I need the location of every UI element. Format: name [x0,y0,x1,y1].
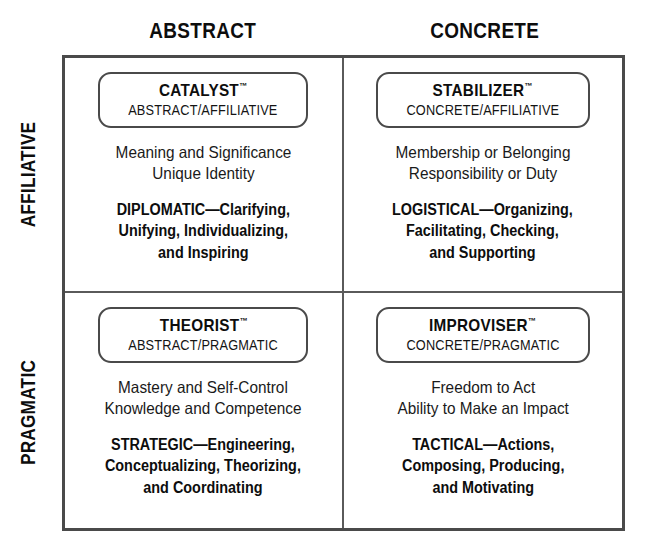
quadrant-theorist-roles: STRATEGIC—Engineering, Conceptualizing, … [105,434,301,498]
role-line: and Motivating [402,477,564,498]
role-line: Facilitating, Checking, [392,220,573,241]
value-line: Ability to Make an Impact [397,398,568,419]
temperament-matrix-diagram: ABSTRACT CONCRETE AFFILIATIVE PRAGMATIC … [0,0,647,539]
quadrant-stabilizer-roles: LOGISTICAL—Organizing, Facilitating, Che… [392,199,573,263]
quadrant-catalyst-title: CATALYST™ [159,81,247,101]
value-line: Responsibility or Duty [395,163,570,184]
quadrant-catalyst-subtitle: ABSTRACT/AFFILIATIVE [129,102,278,118]
quadrant-stabilizer-title-wrap: STABILIZER™ [396,81,570,101]
column-header-abstract-label: ABSTRACT [149,18,256,44]
quadrant-theorist-title: THEORIST™ [159,316,247,336]
quadrant-theorist-label-box: THEORIST™ ABSTRACT/PRAGMATIC [98,307,308,363]
row-header-affiliative-label: AFFILIATIVE [17,121,40,227]
role-line: Conceptualizing, Theorizing, [105,455,301,476]
role-line: Unifying, Individualizing, [117,220,290,241]
quadrant-catalyst-label-box: CATALYST™ ABSTRACT/AFFILIATIVE [98,72,308,128]
quadrant-improviser-subtitle: CONCRETE/PRAGMATIC [406,337,559,353]
trademark-icon: ™ [528,316,536,326]
row-header-pragmatic: PRAGMATIC [0,293,56,531]
row-header-affiliative: AFFILIATIVE [0,55,56,293]
quadrant-theorist: THEORIST™ ABSTRACT/PRAGMATIC Mastery and… [65,293,344,528]
row-header-column: AFFILIATIVE PRAGMATIC [0,55,56,531]
value-line: Knowledge and Competence [105,398,302,419]
quadrant-theorist-values: Mastery and Self-Control Knowledge and C… [105,377,302,419]
quadrant-improviser-title: IMPROVISER™ [429,316,536,336]
value-line: Freedom to Act [397,377,568,398]
quadrant-stabilizer: STABILIZER™ CONCRETE/AFFILIATIVE Members… [344,58,623,293]
trademark-icon: ™ [525,81,533,91]
value-line: Meaning and Significance [115,142,291,163]
value-line: Membership or Belonging [395,142,570,163]
column-header-concrete: CONCRETE [363,10,605,52]
matrix-grid: CATALYST™ ABSTRACT/AFFILIATIVE Meaning a… [62,55,625,531]
role-line: and Supporting [392,242,573,263]
quadrant-improviser-values: Freedom to Act Ability to Make an Impact [397,377,568,419]
role-line: STRATEGIC—Engineering, [105,434,301,455]
quadrant-theorist-subtitle: ABSTRACT/PRAGMATIC [128,337,278,353]
quadrant-stabilizer-label-box: STABILIZER™ CONCRETE/AFFILIATIVE [376,72,590,128]
trademark-icon: ™ [239,81,247,91]
quadrant-theorist-title-wrap: THEORIST™ [118,316,288,336]
quadrant-catalyst-values: Meaning and Significance Unique Identity [115,142,291,184]
role-line: and Inspiring [117,242,290,263]
role-line: Composing, Producing, [402,455,564,476]
column-header-abstract: ABSTRACT [82,10,324,52]
trademark-icon: ™ [239,316,247,326]
quadrant-catalyst-roles: DIPLOMATIC—Clarifying, Unifying, Individ… [117,199,290,263]
column-header-concrete-label: CONCRETE [430,18,539,44]
quadrant-stabilizer-title: STABILIZER™ [433,81,533,101]
role-line: and Coordinating [105,477,301,498]
role-line: DIPLOMATIC—Clarifying, [117,199,290,220]
role-line: LOGISTICAL—Organizing, [392,199,573,220]
quadrant-improviser-roles: TACTICAL—Actions, Composing, Producing, … [402,434,564,498]
quadrant-catalyst-title-wrap: CATALYST™ [118,81,288,101]
quadrant-stabilizer-subtitle: CONCRETE/AFFILIATIVE [406,102,559,118]
column-header-row: ABSTRACT CONCRETE [62,10,625,52]
value-line: Unique Identity [115,163,291,184]
value-line: Mastery and Self-Control [105,377,302,398]
quadrant-improviser-label-box: IMPROVISER™ CONCRETE/PRAGMATIC [376,307,590,363]
row-header-pragmatic-label: PRAGMATIC [17,359,40,464]
quadrant-catalyst: CATALYST™ ABSTRACT/AFFILIATIVE Meaning a… [65,58,344,293]
role-line: TACTICAL—Actions, [402,434,564,455]
quadrant-improviser-title-wrap: IMPROVISER™ [396,316,570,336]
quadrant-stabilizer-values: Membership or Belonging Responsibility o… [395,142,570,184]
quadrant-improviser: IMPROVISER™ CONCRETE/PRAGMATIC Freedom t… [344,293,623,528]
